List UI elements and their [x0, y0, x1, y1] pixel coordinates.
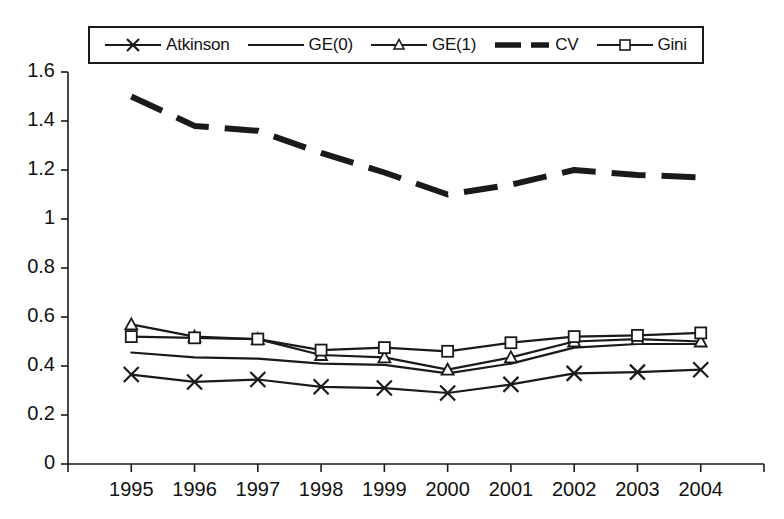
- data-point-marker-triangle: [125, 318, 137, 329]
- data-point-marker-square: [189, 332, 200, 343]
- axis-layer: [61, 72, 764, 472]
- series-line-atkinson: [131, 370, 700, 393]
- y-tick-label: 1: [1, 206, 55, 229]
- data-point-marker-square: [316, 345, 327, 356]
- data-point-marker-square: [442, 346, 453, 357]
- y-tick-label: 0.8: [1, 255, 55, 278]
- plot-area: [0, 0, 784, 519]
- data-point-marker-square: [632, 330, 643, 341]
- series-line-ge-1: [131, 324, 700, 369]
- y-tick-label: 0: [1, 451, 55, 474]
- y-tick-label: 0.4: [1, 353, 55, 376]
- y-tick-label: 0.2: [1, 402, 55, 425]
- y-tick-label: 1.6: [1, 59, 55, 82]
- y-tick-label: 1.4: [1, 108, 55, 131]
- y-tick-label: 0.6: [1, 304, 55, 327]
- data-point-marker-square: [126, 331, 137, 342]
- data-point-marker-square: [695, 327, 706, 338]
- inequality-indices-line-chart: Atkinson GE(0) GE(1): [0, 0, 784, 519]
- y-tick-label: 1.2: [1, 157, 55, 180]
- data-point-marker-square: [505, 337, 516, 348]
- series-layer: [124, 97, 708, 401]
- series-line-gini: [131, 333, 700, 351]
- series-line-cv: [131, 97, 700, 195]
- data-point-marker-square: [569, 331, 580, 342]
- data-point-marker-square: [252, 334, 263, 345]
- x-tick-label: 2004: [661, 478, 741, 501]
- data-point-marker-square: [379, 342, 390, 353]
